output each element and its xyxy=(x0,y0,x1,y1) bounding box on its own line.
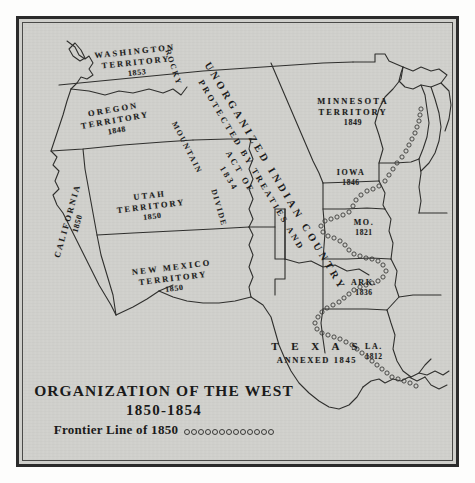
frontier-line-1850 xyxy=(313,107,423,388)
map-page: WASHINGTON TERRITORY 1853 OREGON TERRITO… xyxy=(0,0,475,483)
map-linework xyxy=(23,23,452,460)
